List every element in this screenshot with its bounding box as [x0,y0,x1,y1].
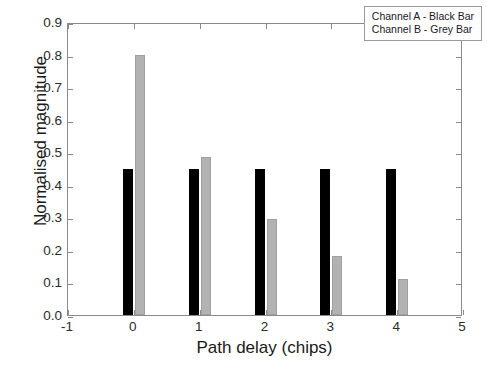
x-tick-label: 3 [310,319,350,334]
x-axis-title: Path delay (chips) [67,338,462,358]
y-tick-mark [68,317,73,318]
y-tick-mark [68,187,73,188]
y-tick-label: 0.9 [0,16,62,29]
y-tick-mark [68,89,73,90]
legend-entry-series-a: Channel A - Black Bar [372,10,474,23]
y-tick-mark [68,57,73,58]
legend-entry-series-b: Channel B - Grey Bar [372,23,474,36]
y-tick-label: 0.6 [0,114,62,127]
bar-series-b-cat-3 [332,256,342,315]
bar-series-a-cat-1 [189,169,199,316]
x-tick-label: -1 [47,319,87,334]
y-tick-label: 0.2 [0,244,62,257]
bar-series-a-cat-2 [255,169,265,316]
y-tick-mark [456,187,461,188]
x-tick-label: 0 [113,319,153,334]
bar-series-a-cat-4 [386,169,396,316]
x-tick-label: 2 [245,319,285,334]
y-tick-mark [456,122,461,123]
y-tick-mark [456,89,461,90]
bar-series-b-cat-0 [135,55,145,315]
x-tick-mark [266,24,267,29]
x-tick-mark [463,310,464,315]
legend-box: Channel A - Black Bar Channel B - Grey B… [364,6,482,41]
x-tick-label: 4 [376,319,416,334]
bar-series-a-cat-0 [123,169,133,316]
y-tick-label: 0.3 [0,211,62,224]
bar-series-b-cat-1 [201,157,211,315]
bar-series-b-cat-4 [398,279,408,315]
x-tick-mark [331,24,332,29]
y-tick-mark [68,284,73,285]
y-tick-mark [456,219,461,220]
y-tick-label: 0.8 [0,49,62,62]
x-tick-mark [68,24,69,29]
y-tick-mark [68,154,73,155]
x-tick-label: 1 [179,319,219,334]
y-tick-mark [68,219,73,220]
y-tick-mark [456,57,461,58]
x-tick-label: 5 [442,319,482,334]
y-tick-label: 0.5 [0,146,62,159]
y-tick-mark [456,252,461,253]
figure-canvas: Normalised magnitude 0.00.10.20.30.40.50… [0,0,487,371]
bar-series-a-cat-3 [320,169,330,316]
y-axis-tick-labels: 0.00.10.20.30.40.50.60.70.80.9 [0,0,62,371]
y-tick-mark [68,252,73,253]
y-tick-label: 0.7 [0,81,62,94]
x-tick-mark [200,24,201,29]
y-tick-mark [456,317,461,318]
y-tick-mark [68,122,73,123]
x-tick-mark [134,24,135,29]
plot-area [67,23,462,316]
x-tick-mark [68,310,69,315]
y-tick-label: 0.1 [0,276,62,289]
y-tick-mark [456,154,461,155]
bar-series-b-cat-2 [267,219,277,315]
y-tick-mark [456,284,461,285]
y-tick-label: 0.4 [0,179,62,192]
